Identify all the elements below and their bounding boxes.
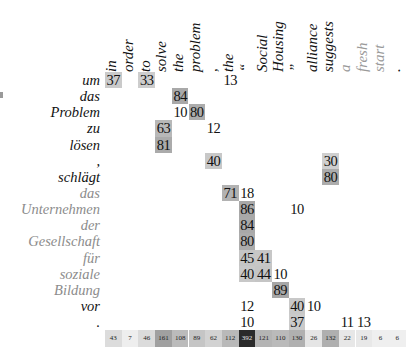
column-total-cell: 392	[239, 330, 256, 347]
row-label: schlägt	[0, 169, 102, 185]
column-label: “	[239, 0, 256, 72]
column-label: start	[372, 0, 389, 72]
matrix-cell: 12	[205, 120, 222, 136]
matrix-cell: 37	[289, 314, 306, 330]
column-total-cell: 22	[339, 330, 356, 347]
row-label: Gesellschaft	[0, 233, 102, 249]
matrix-cell: 89	[272, 282, 289, 298]
matrix-cell: 10	[172, 104, 189, 120]
column-total-cell: 26	[305, 330, 322, 347]
column-label-text: a	[338, 65, 353, 73]
matrix-cell: 11	[339, 314, 356, 330]
matrix-cell: 40	[205, 153, 222, 169]
row-label: Unternehmen	[0, 201, 102, 217]
column-label-text: ,	[205, 68, 220, 72]
matrix-cell: 71	[222, 185, 239, 201]
matrix-cell: 81	[155, 137, 172, 153]
column-label: Housing	[272, 0, 289, 72]
column-total-cell: 132	[322, 330, 339, 347]
column-total-cell: 62	[205, 330, 222, 347]
row-label: ,	[0, 153, 102, 169]
matrix-cell: 18	[239, 185, 256, 201]
column-label-text: the	[171, 54, 186, 72]
row-label: um	[0, 72, 102, 88]
row-label: für	[0, 250, 102, 266]
row-label: lösen	[0, 137, 102, 153]
column-label-text: “	[238, 64, 253, 72]
column-label: ”	[289, 0, 306, 72]
row-label: .	[0, 314, 102, 330]
row-label: soziale	[0, 266, 102, 282]
row-label: das	[0, 185, 102, 201]
column-label-text: in	[104, 60, 119, 72]
row-label: Problem	[0, 104, 102, 120]
column-label: .	[389, 0, 406, 72]
matrix-cell: 80	[189, 104, 206, 120]
column-total-cell: 110	[272, 330, 289, 347]
row-label: Bildung	[0, 282, 102, 298]
column-label: the	[222, 0, 239, 72]
column-label-text: ”	[288, 64, 303, 72]
row-label: vor	[0, 298, 102, 314]
column-total-cell: 6	[389, 330, 406, 347]
column-label-text: Housing	[271, 21, 286, 72]
column-label-text: the	[221, 54, 236, 72]
matrix-cell: 12	[239, 298, 256, 314]
column-total-cell: 89	[189, 330, 206, 347]
column-total-cell: 43	[105, 330, 122, 347]
column-total-cell: 46	[138, 330, 155, 347]
matrix-cell: 10	[289, 201, 306, 217]
matrix-cell: 37	[105, 72, 122, 88]
column-total-cell: 7	[122, 330, 139, 347]
matrix-cell: 10	[305, 298, 322, 314]
column-total-cell: 19	[356, 330, 373, 347]
column-total-cell: 6	[372, 330, 389, 347]
matrix-cell: 13	[222, 72, 239, 88]
column-label-text: solve	[154, 41, 169, 72]
column-total-cell: 121	[255, 330, 272, 347]
column-total-cell: 112	[222, 330, 239, 347]
column-total-cell: 130	[289, 330, 306, 347]
column-label: the	[172, 0, 189, 72]
matrix-cell: 40	[289, 298, 306, 314]
column-label-text: start	[372, 44, 387, 72]
matrix-cell: 41	[255, 250, 272, 266]
column-label-text: .	[388, 68, 403, 72]
column-label-text: problem	[188, 23, 203, 72]
column-label-text: order	[121, 39, 136, 72]
column-label-text: alliance	[305, 24, 320, 72]
column-total-cell: 161	[155, 330, 172, 347]
column-label-text: Social	[255, 35, 270, 73]
matrix-cell: 44	[255, 266, 272, 282]
column-label-text: to	[138, 60, 153, 72]
matrix-cell: 33	[138, 72, 155, 88]
row-label: das	[0, 88, 102, 104]
row-label: der	[0, 217, 102, 233]
matrix-cell: 80	[322, 169, 339, 185]
column-label-text: suggests	[321, 21, 336, 72]
column-label: suggests	[322, 0, 339, 72]
matrix-cell: 84	[172, 88, 189, 104]
column-label: order	[122, 0, 139, 72]
matrix-cell: 13	[356, 314, 373, 330]
column-total-cell: 108	[172, 330, 189, 347]
matrix-cell: 80	[239, 233, 256, 249]
matrix-cell: 45	[239, 250, 256, 266]
matrix-cell: 86	[239, 201, 256, 217]
column-label: problem	[189, 0, 206, 72]
column-label: a	[339, 0, 356, 72]
matrix-cell: 84	[239, 217, 256, 233]
matrix-cell: 63	[155, 120, 172, 136]
column-label: fresh	[356, 0, 373, 72]
source-word-labels: umdasProblemzulösen,schlägtdasUnternehme…	[0, 72, 102, 330]
matrix-cell: 10	[239, 314, 256, 330]
matrix-cell: 10	[272, 266, 289, 282]
matrix-cell: 30	[322, 153, 339, 169]
matrix-cell: 40	[239, 266, 256, 282]
column-label-text: fresh	[355, 43, 370, 72]
row-label: zu	[0, 120, 102, 136]
